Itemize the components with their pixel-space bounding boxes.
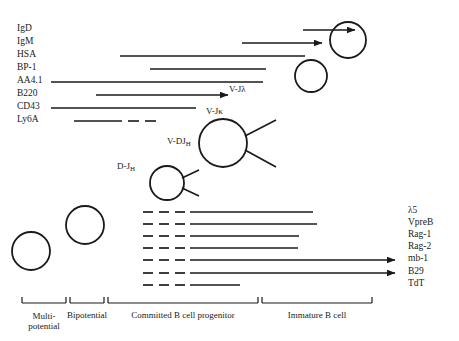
rearrangement-base-text: V-DJ [167,136,186,146]
stage-label-text-multi-potential: Multi-potential [28,311,60,331]
pro-b-arm-lower [182,188,199,196]
stage-bracket-multi-potential [22,297,66,303]
rearrangement-label-v-dj-h: V-DJH [167,137,191,146]
surface-marker-lines-group [51,30,355,121]
stage-label-text-bipotential: Bipotential [67,311,107,320]
pre-b-arm-lower [245,150,276,167]
rearrangement-subscript: H [186,140,191,148]
diagram-canvas [0,0,459,341]
immature-b-cell [295,60,327,92]
pro-b-arm-upper [182,170,199,178]
marker-label-igd: IgD [17,24,32,34]
bipotential-cell [66,206,104,244]
stage-label-text-committed-b-cell-progenitor: Committed B cell progenitor [131,311,235,320]
gene-label-mb-1: mb-1 [408,254,428,264]
stage-bracket-committed-b-cell-progenitor [108,297,258,303]
rearrangement-label-v-j: V-Jλ [229,85,246,94]
marker-label-igm: IgM [17,37,33,47]
rearrangement-label-d-j-h: D-JH [117,162,135,171]
b-cell-development-figure: IgDIgMHSABP-1AA4.1B220CD43Ly6A λ5VpreBRa… [0,0,459,341]
rearrangement-base-text: V-Jλ [229,84,246,94]
stage-label-line2: potential [28,321,60,331]
stage-label-line1: Multi- [28,311,60,321]
gene-label-vpreb: VpreB [408,218,433,228]
stage-bracket-bipotential [70,297,104,303]
marker-label-b220: B220 [17,89,38,99]
multipotential-cell [12,232,50,270]
pro-b-cell [150,166,184,200]
gene-label-b29: B29 [408,267,424,277]
pre-b-cell [199,119,247,167]
rearrangement-base-text: V-Jκ [206,106,223,116]
marker-label-ly6a: Ly6A [17,115,39,125]
gene-expression-lines-group [143,212,395,285]
gene-label-rag-2: Rag-2 [408,242,431,252]
stage-label-line1: Immature B cell [288,311,346,320]
rearrangement-label-v-j: V-Jκ [206,107,223,116]
stage-brackets-group [22,297,372,303]
rearrangement-arms-group [182,120,276,196]
gene-label--5: λ5 [408,206,417,216]
marker-label-cd43: CD43 [17,102,40,112]
stage-label-line1: Bipotential [67,311,107,320]
stage-label-text-immature-b-cell: Immature B cell [288,311,346,320]
gene-label-rag-1: Rag-1 [408,230,431,240]
rearrangement-subscript: H [130,165,135,173]
marker-label-aa4-1: AA4.1 [17,76,43,86]
stage-bracket-immature-b-cell [262,297,372,303]
marker-label-bp-1: BP-1 [17,63,37,73]
marker-label-hsa: HSA [17,50,36,60]
rearrangement-base-text: D-J [117,161,130,171]
gene-label-tdt: TdT [408,279,424,289]
stage-label-line1: Committed B cell progenitor [131,311,235,320]
mature-immature-b-cell [330,22,366,58]
pre-b-arm-upper [245,120,276,136]
